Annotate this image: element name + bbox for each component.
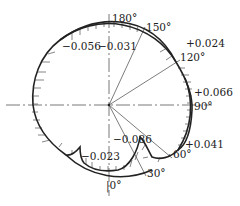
angle-label-30: 30° — [147, 167, 166, 179]
angle-label-150: 150° — [146, 21, 171, 33]
value-label-plus-0024: +0.024 — [186, 37, 225, 49]
angle-label-180: 180° — [112, 12, 137, 24]
value-label-plus-0041: +0.041 — [185, 138, 224, 150]
polar-deviation-diagram: 180° 150° 120° 90° 60° 30° |0° −0.056 −0… — [0, 0, 240, 206]
value-label-minus-0086: −0.086 — [113, 133, 152, 145]
value-label-minus-0031: −0.031 — [98, 40, 137, 52]
angle-label-0: |0° — [106, 179, 121, 193]
value-label-minus-0023: −0.023 — [81, 150, 120, 162]
center-point — [108, 104, 111, 107]
angle-label-90: 90° — [194, 100, 213, 112]
angle-label-120: 120° — [180, 51, 205, 63]
value-label-minus-0056: −0.056 — [62, 40, 101, 52]
value-label-plus-0066: +0.066 — [194, 86, 233, 98]
